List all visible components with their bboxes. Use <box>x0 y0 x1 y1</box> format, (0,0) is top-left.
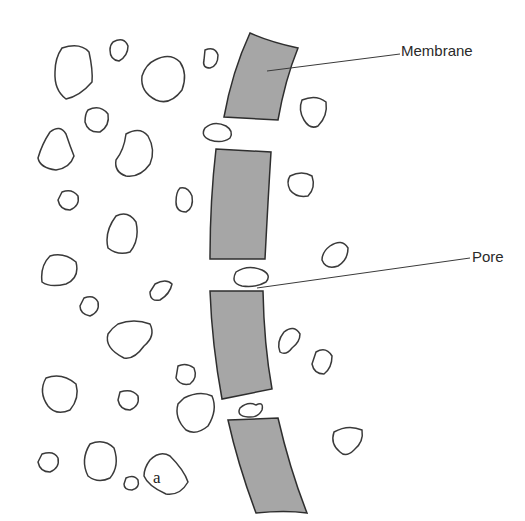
particle <box>107 214 137 253</box>
membrane-label: Membrane <box>401 42 473 59</box>
particle <box>85 108 108 132</box>
particle <box>279 328 300 353</box>
membrane <box>210 33 307 513</box>
pore-particle-3 <box>239 404 262 418</box>
particle <box>42 376 77 412</box>
particle <box>124 476 138 490</box>
pore-leader-line <box>257 258 470 288</box>
membrane-diagram <box>0 0 525 521</box>
particle <box>150 281 172 300</box>
particle <box>58 191 78 210</box>
membrane-segment-3 <box>210 291 272 399</box>
particle <box>288 173 313 196</box>
particle <box>110 40 128 61</box>
right-particles <box>279 97 363 454</box>
particle <box>176 364 195 384</box>
particle <box>176 188 192 212</box>
membrane-segment-1 <box>224 33 298 120</box>
particle <box>55 46 92 99</box>
particle <box>204 49 218 68</box>
particle <box>333 427 362 454</box>
particle <box>322 242 348 267</box>
membrane-segment-2 <box>210 149 271 259</box>
pore-label: Pore <box>472 248 504 265</box>
particle <box>38 128 74 170</box>
particle <box>84 442 116 481</box>
particle <box>144 454 188 495</box>
panel-label: a <box>153 468 161 488</box>
particle <box>300 97 326 127</box>
left-particles <box>38 40 218 495</box>
pore-particle-1 <box>203 123 231 141</box>
particle <box>38 453 58 472</box>
membrane-segment-4 <box>228 418 307 513</box>
particle <box>42 255 77 286</box>
pore-particle-2 <box>234 267 268 286</box>
particle <box>177 393 214 432</box>
particle <box>312 350 332 374</box>
particle <box>116 130 153 176</box>
particle <box>80 297 98 316</box>
particle <box>142 56 185 101</box>
particle <box>118 391 138 410</box>
particle <box>107 321 152 358</box>
